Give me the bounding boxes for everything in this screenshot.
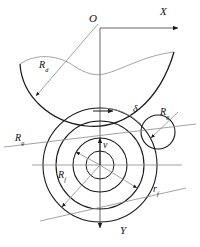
axis-group [100,28,178,228]
radius-arrow-Rf [62,165,100,207]
inclined-line-lower [40,188,186,221]
curve-radius-label: Rd [39,60,48,72]
origin-label: O [89,13,97,24]
figure-canvas: O X Y Rd δ Rg Rg v Rf rf [0,0,200,247]
inner-circle-radius-label: Rf [58,170,66,182]
y-axis-label: Y [120,225,126,236]
radius-arrow-inner [76,152,100,165]
outer-circle-radius-label: Rg [15,133,24,145]
small-circle-radius-label: Rg [160,107,169,119]
velocity-label: v [103,140,107,150]
angle-delta-label: δ [133,104,138,114]
geometry-diagram [0,0,200,247]
x-axis-label: X [160,6,167,17]
mid-circle-radius-label: rf [153,184,159,196]
